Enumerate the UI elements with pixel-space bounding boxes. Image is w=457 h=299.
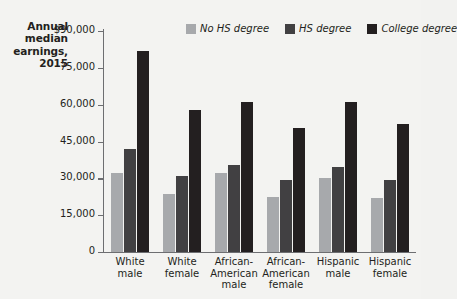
x-axis-label-line: Hispanic (312, 256, 364, 268)
x-axis-label-line: African- (208, 256, 260, 268)
x-axis-label-line: American (208, 268, 260, 280)
chart-title-line: earnings, (2, 45, 68, 57)
x-axis-label-line: African- (260, 256, 312, 268)
y-axis-tick-label: 30,000 (60, 171, 95, 182)
bar-group (156, 31, 208, 252)
bar (345, 102, 357, 252)
bar (189, 110, 201, 252)
x-axis-label: African-Americanmale (208, 256, 260, 291)
bar (293, 128, 305, 252)
x-axis-label-line: White (156, 256, 208, 268)
bar-group (260, 31, 312, 252)
x-axis-label: African-Americanfemale (260, 256, 312, 291)
bar (163, 194, 175, 252)
x-axis-label-line: White (104, 256, 156, 268)
bar (332, 167, 344, 252)
bar (228, 165, 240, 252)
x-axis-label: Whitemale (104, 256, 156, 279)
x-axis-label: Whitefemale (156, 256, 208, 279)
bar-group (364, 31, 416, 252)
bar (397, 124, 409, 252)
y-axis-tick-label: 45,000 (60, 135, 95, 146)
x-axis-label-line: female (364, 268, 416, 280)
bar (267, 197, 279, 252)
x-axis-label-line: male (312, 268, 364, 280)
x-axis-label-line: female (156, 268, 208, 280)
bar (215, 173, 227, 252)
chart-title-line: 2015 (2, 57, 68, 69)
x-axis-label-line: female (260, 279, 312, 291)
y-axis-tick-label: 0 (89, 245, 95, 256)
y-axis-tick-label: 15,000 (60, 208, 95, 219)
bar (137, 51, 149, 252)
x-axis-label-line: male (208, 279, 260, 291)
bar (280, 180, 292, 252)
bar (111, 173, 123, 252)
x-axis-label-line: Hispanic (364, 256, 416, 268)
bar-group (104, 31, 156, 252)
x-axis-label-line: male (104, 268, 156, 280)
bar (241, 102, 253, 252)
x-axis-labels: WhitemaleWhitefemaleAfrican-Americanmale… (104, 256, 416, 298)
y-axis-tick-label: $90,000 (54, 24, 95, 35)
bar (371, 198, 383, 252)
x-axis-label-line: American (260, 268, 312, 280)
bar (384, 180, 396, 252)
y-axis-tick-label: 60,000 (60, 98, 95, 109)
bar (319, 178, 331, 252)
y-axis-tick-label: 75,000 (60, 61, 95, 72)
x-axis-label: Hispanicfemale (364, 256, 416, 279)
bar-group (208, 31, 260, 252)
x-axis-label: Hispanicmale (312, 256, 364, 279)
bars-layer (104, 31, 416, 252)
bar (176, 176, 188, 252)
bar (124, 149, 136, 252)
bar-group (312, 31, 364, 252)
